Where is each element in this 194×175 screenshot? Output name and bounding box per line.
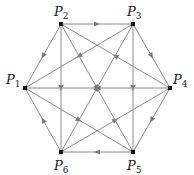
node-p2 [59,22,63,26]
node-label-p6: P6 [53,158,69,175]
node-p5 [131,150,135,154]
node-label-p2: P2 [53,4,68,21]
node-label-p3: P3 [126,4,142,21]
node-p4 [168,86,172,90]
edges-group [25,21,170,154]
directed-graph-diagram: P1P2P3P4P5P6 [0,0,194,175]
node-p6 [59,150,63,154]
node-label-p5: P5 [126,158,142,175]
arrowhead-icon [94,21,100,26]
node-p1 [23,86,27,90]
node-label-p4: P4 [172,72,188,89]
node-p3 [131,22,135,26]
arrowhead-icon [94,149,100,154]
node-label-p1: P1 [5,72,20,89]
